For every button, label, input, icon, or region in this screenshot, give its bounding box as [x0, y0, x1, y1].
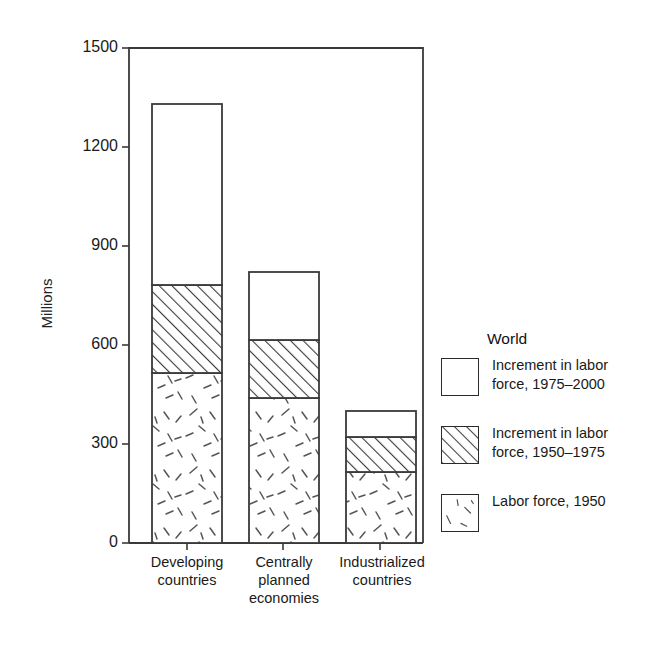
- legend-title: World: [487, 330, 527, 348]
- legend-item-label: Increment in labor force, 1950–1975: [492, 424, 608, 462]
- bar-segment-increment-1975-2000: [346, 411, 416, 437]
- bar-segment-increment-1950-1975: [152, 285, 222, 373]
- x-axis-ticks: [187, 543, 380, 550]
- legend-item-increment-1975-2000[interactable]: Increment in labor force, 1975–2000: [441, 358, 608, 396]
- x-category-label-industrialized-countries: Industrialized countries: [318, 553, 446, 589]
- legend-item-label: Increment in labor force, 1975–2000: [492, 356, 608, 394]
- chart-figure: Millions 1500 1200 900 600 300 0: [0, 0, 647, 653]
- bar-industrialized-countries[interactable]: [346, 411, 416, 543]
- legend-item-increment-1950-1975[interactable]: Increment in labor force, 1950–1975: [441, 426, 608, 464]
- hatched-swatch-icon: [441, 426, 479, 464]
- bar-segment-labor-force-1950: [249, 398, 319, 543]
- legend-item-labor-force-1950[interactable]: Labor force, 1950: [441, 494, 606, 532]
- y-axis-ticks: [122, 48, 129, 543]
- bar-segment-increment-1950-1975: [346, 437, 416, 472]
- bar-segment-labor-force-1950: [346, 472, 416, 543]
- bar-segment-increment-1975-2000: [152, 104, 222, 285]
- bar-segment-labor-force-1950: [152, 373, 222, 543]
- blank-swatch-icon: [441, 358, 479, 396]
- bar-developing-countries[interactable]: [152, 104, 222, 543]
- bar-segment-increment-1975-2000: [249, 272, 319, 340]
- bar-segment-increment-1950-1975: [249, 340, 319, 398]
- legend-item-label: Labor force, 1950: [492, 492, 606, 511]
- stipple-swatch-icon: [441, 494, 479, 532]
- bar-centrally-planned-economies[interactable]: [249, 272, 319, 543]
